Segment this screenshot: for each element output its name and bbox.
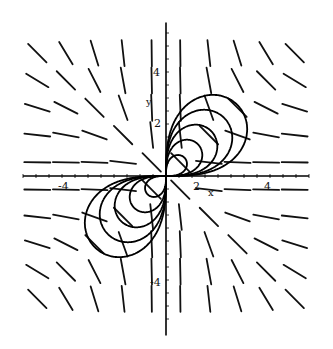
slope-segment	[171, 180, 189, 198]
solution-curve	[166, 125, 217, 176]
slope-segment	[25, 104, 50, 112]
slope-segment	[82, 162, 108, 163]
slope-segment	[119, 96, 128, 120]
slope-segment	[207, 259, 212, 285]
slope-segment	[54, 102, 77, 114]
y-axis-label: y	[146, 97, 152, 107]
slope-segment	[284, 74, 306, 87]
slope-segment	[257, 262, 275, 280]
slope-segment	[150, 122, 153, 148]
slope-segment	[179, 204, 182, 230]
slope-segment	[207, 286, 210, 312]
slope-segment	[179, 122, 182, 148]
solution-curve	[115, 176, 166, 227]
x-tick-label-2: 2	[193, 181, 200, 192]
slope-segment	[232, 260, 244, 283]
solution-curve	[166, 95, 247, 176]
slope-segment	[119, 232, 128, 256]
slope-segment	[57, 262, 75, 280]
solution-curve	[85, 176, 166, 257]
slope-segment	[110, 161, 136, 164]
slope-segment	[53, 133, 79, 138]
x-tick-label-4: 4	[264, 181, 271, 192]
y-tick-label-4: 4	[153, 67, 160, 78]
slope-segment	[253, 133, 279, 138]
slope-segment	[228, 235, 246, 253]
slope-segment	[85, 99, 103, 117]
slope-segment	[259, 42, 272, 64]
slope-segment	[180, 95, 181, 121]
slope-segment	[180, 259, 181, 285]
slope-segment	[28, 290, 46, 308]
y-tick-label-2: 2	[154, 118, 161, 129]
slope-segment	[204, 96, 213, 120]
slope-segment	[282, 104, 307, 112]
slope-segment	[114, 126, 132, 144]
slope-segment	[122, 40, 125, 66]
slope-segment	[59, 288, 72, 310]
slope-segment	[207, 68, 212, 94]
x-tick-label-neg4: -4	[58, 181, 69, 192]
slope-segment	[59, 42, 72, 64]
x-axis-label: x	[208, 188, 214, 198]
slope-segment	[232, 69, 244, 92]
slope-segment	[225, 189, 251, 190]
direction-field-plot	[0, 0, 333, 349]
slope-segment	[234, 41, 242, 66]
slope-segment	[24, 134, 50, 137]
slope-segment	[121, 259, 126, 285]
slope-segment	[151, 67, 152, 93]
axes	[23, 23, 309, 336]
slope-segment	[26, 265, 48, 278]
slope-segment	[204, 232, 213, 256]
slope-segment	[53, 162, 79, 163]
y-tick-label-neg4: -4	[150, 277, 161, 288]
slope-segment	[255, 102, 278, 114]
slope-segment	[259, 288, 272, 310]
slope-segment	[24, 216, 50, 219]
slope-segment	[150, 204, 153, 230]
slope-segment	[207, 40, 210, 66]
slope-segment	[28, 44, 46, 62]
slope-segment	[286, 290, 304, 308]
slope-segment	[91, 41, 99, 66]
slope-segment	[225, 213, 249, 222]
slope-segment	[282, 240, 307, 248]
slope-segment	[253, 215, 279, 220]
slope-segment	[57, 71, 75, 89]
slope-segment	[200, 208, 218, 226]
slope-segment	[286, 44, 304, 62]
slope-segment	[26, 74, 48, 87]
slope-segment	[122, 286, 125, 312]
slope-segment	[82, 131, 106, 140]
slope-segment	[257, 71, 275, 89]
slope-segment	[54, 238, 77, 250]
slope-segment	[253, 162, 279, 163]
slope-segment	[284, 265, 306, 278]
slope-segment	[282, 216, 308, 219]
slope-segment	[180, 67, 181, 93]
slope-segment	[121, 68, 126, 94]
slope-segment	[89, 260, 101, 283]
slope-segment	[180, 231, 181, 257]
slope-segment	[282, 134, 308, 137]
slope-segment	[89, 69, 101, 92]
slope-segment	[25, 240, 50, 248]
slope-segment	[234, 286, 242, 311]
slope-segment	[91, 286, 99, 311]
slope-segment	[151, 231, 152, 257]
slope-segment	[53, 215, 79, 220]
slope-segment	[255, 238, 278, 250]
slope-segment	[143, 153, 161, 171]
